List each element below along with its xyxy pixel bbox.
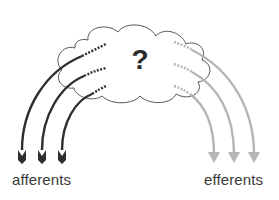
afferents-label: afferents — [12, 171, 71, 188]
arrowhead-icon — [208, 152, 220, 163]
arrowhead-icon — [248, 152, 260, 163]
efferents-label: efferents — [204, 171, 263, 188]
efferent-arrowheads — [208, 152, 260, 163]
arrowhead-icon — [228, 152, 240, 163]
afferent-arc-3 — [62, 94, 92, 150]
afferent-fletchings — [18, 150, 66, 164]
fletching-icon — [58, 150, 66, 164]
fletching-icon — [38, 150, 46, 164]
fletching-icon — [18, 150, 26, 164]
afferent-efferent-diagram — [0, 0, 279, 200]
efferent-arc-3 — [190, 94, 214, 154]
question-mark: ? — [128, 46, 152, 74]
